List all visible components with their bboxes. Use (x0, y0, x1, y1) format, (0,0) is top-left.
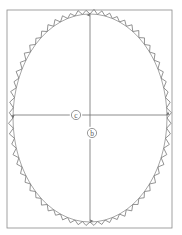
dimension-label-c: c (71, 110, 80, 119)
dimension-label-b: b (87, 128, 96, 137)
dimension-label-b-text: b (90, 129, 94, 138)
figure-container: c b (0, 0, 182, 235)
diagram-canvas: c b (0, 0, 182, 235)
bounding-rectangle (7, 10, 172, 228)
